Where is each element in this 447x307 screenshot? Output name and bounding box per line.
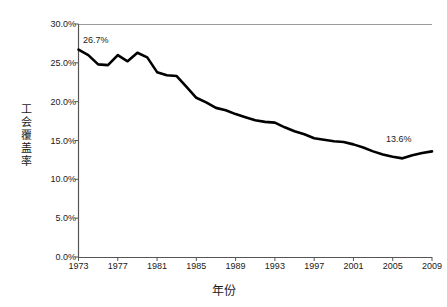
x-axis-tick-label: 1981 (147, 261, 167, 271)
chart-page: 工 会 覆 盖 率 0.0%5.0%10.0%15.0%20.0%25.0%30… (0, 0, 447, 307)
data-line-union-coverage (79, 50, 433, 159)
x-axis-tick-label: 2001 (343, 261, 363, 271)
x-axis-tick-label: 1977 (108, 261, 128, 271)
x-axis-tick-label: 1997 (304, 261, 324, 271)
x-axis-tick-label: 1993 (265, 261, 285, 271)
x-axis-tick-label: 2005 (383, 261, 403, 271)
x-axis-tick-label: 1973 (68, 261, 88, 271)
x-axis-tick-labels: 1973197719811985198919931997200120052009 (0, 261, 447, 275)
x-axis-tick-label: 2009 (422, 261, 442, 271)
x-axis-tick-label: 1985 (186, 261, 206, 271)
annotation-end-value: 13.6% (386, 134, 412, 144)
x-axis-tick-label: 1989 (226, 261, 246, 271)
annotation-start-value: 26.7% (83, 35, 109, 45)
x-axis-title: 年份 (0, 281, 447, 298)
